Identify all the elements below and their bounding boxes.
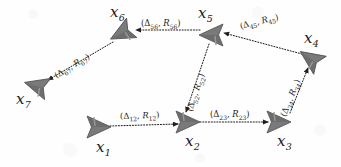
- node-label-subscript: 2: [194, 141, 200, 152]
- robot-node-x1: [87, 116, 111, 138]
- node-label-base: x: [185, 132, 194, 150]
- paren-close: ): [177, 18, 180, 28]
- node-label-subscript: 6: [119, 12, 125, 23]
- node-label-base: x: [16, 90, 25, 108]
- robot-antenna-icon: [215, 36, 216, 45]
- node-label-base: x: [198, 4, 207, 22]
- node-label-base: x: [304, 29, 313, 47]
- node-label-base: x: [96, 138, 105, 156]
- node-label-x7: x7: [16, 92, 31, 107]
- robot-node-x4: [294, 43, 326, 75]
- robot-node-x2: [176, 111, 200, 133]
- node-label-x6: x6: [110, 5, 125, 20]
- node-label-subscript: 7: [25, 99, 31, 110]
- node-label-subscript: 5: [207, 13, 213, 24]
- node-label-x5: x5: [198, 6, 213, 21]
- node-label-x1: x1: [96, 140, 111, 155]
- delta-subscript: 56: [150, 23, 158, 30]
- robot-antenna-icon: [94, 117, 95, 126]
- robot-antenna-icon: [274, 112, 275, 121]
- robot-body-icon: [294, 43, 326, 75]
- paren-close: ): [156, 110, 160, 120]
- node-label-x2: x2: [185, 134, 200, 149]
- node-label-subscript: 4: [313, 38, 319, 49]
- node-label-base: x: [277, 132, 286, 150]
- delta-subscript: 23: [219, 114, 227, 121]
- paren-close: ): [246, 109, 249, 119]
- node-label-x4: x4: [304, 31, 319, 46]
- node-label-subscript: 3: [286, 141, 292, 152]
- node-label-base: x: [110, 3, 119, 21]
- robot-node-x5: [199, 24, 223, 46]
- node-label-x3: x3: [277, 134, 292, 149]
- node-label-subscript: 1: [105, 147, 111, 158]
- pose-graph-figure: x1x2x3x4x5x6x7 (Δ12, R12)(Δ23, R23)(Δ34,…: [0, 0, 341, 167]
- edge-label-e56: (Δ56, R56): [141, 19, 181, 27]
- edge-label-e12: (Δ12, R12): [120, 111, 160, 121]
- robot-antenna-icon: [183, 112, 184, 121]
- edge-label-e23: (Δ23, R23): [210, 110, 250, 118]
